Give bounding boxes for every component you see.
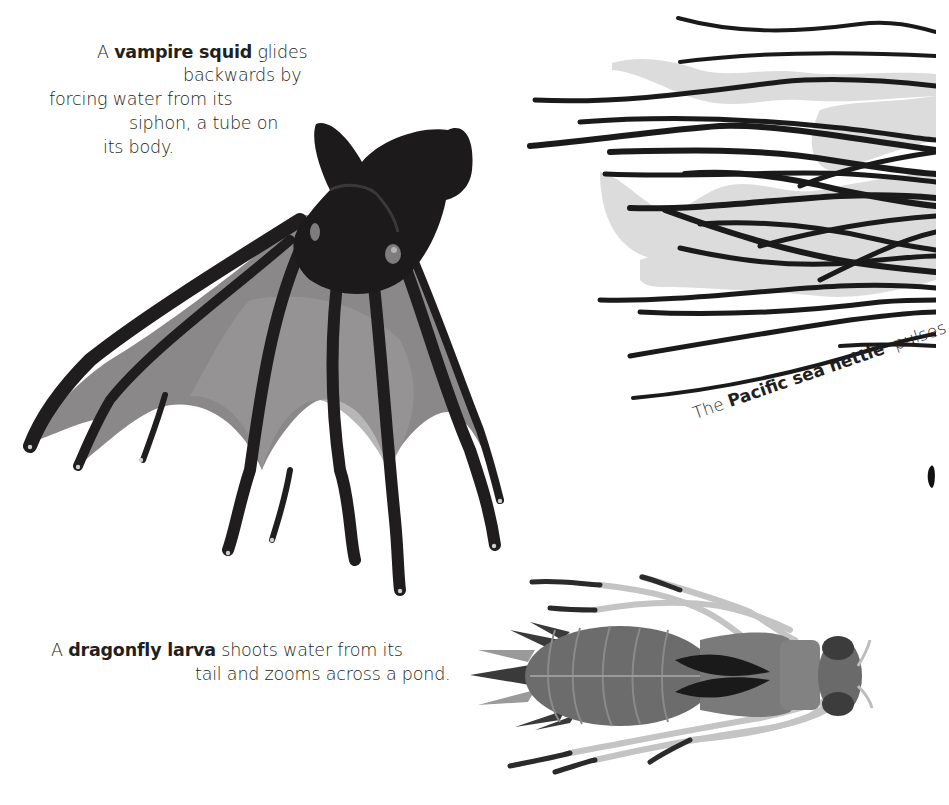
squid-caption-line-4: siphon, a tube on — [129, 112, 278, 136]
squid-caption-line-5: its body. — [103, 136, 174, 160]
dragonfly-larva-term: dragonfly larva — [68, 640, 216, 660]
dragonfly-larva-caption: A dragonfly larva shoots water from its … — [0, 0, 500, 80]
larva-caption-line-1: A dragonfly larva shoots water from its — [51, 639, 403, 663]
larva-caption-line-2: tail and zooms across a pond. — [195, 663, 450, 687]
squid-caption-line-3: forcing water from its — [49, 88, 232, 112]
